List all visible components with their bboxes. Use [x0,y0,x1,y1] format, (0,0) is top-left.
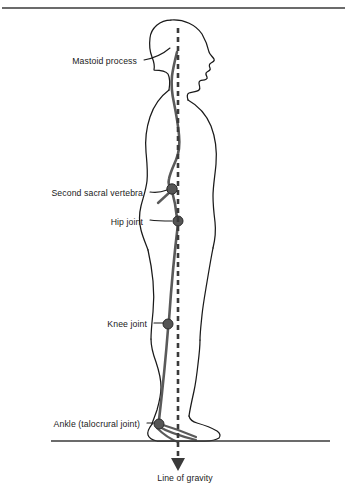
second-sacral-vertebra-marker [167,184,177,194]
label-hip-joint: Hip joint [111,218,143,227]
line-of-gravity-arrowhead [171,458,185,471]
leader-second-sacral-vertebra [150,190,167,192]
knee-joint-marker [163,319,173,329]
label-line-of-gravity: Line of gravity [157,474,213,483]
skeletal-axis [159,52,179,420]
leader-hip-joint [150,220,172,221]
posture-line-of-gravity-diagram [0,0,347,494]
label-second-sacral-vertebra: Second sacral vertebra [51,189,143,198]
label-ankle-talocrural-joint: Ankle (talocrural joint) [54,420,140,429]
label-knee-joint: Knee joint [107,320,147,329]
ankle-joint-marker [154,419,164,429]
sacrum-marker-stub [158,192,170,203]
label-mastoid-process: Mastoid process [72,57,137,66]
body-outline [140,20,221,441]
leader-mastoid-process [144,48,170,60]
